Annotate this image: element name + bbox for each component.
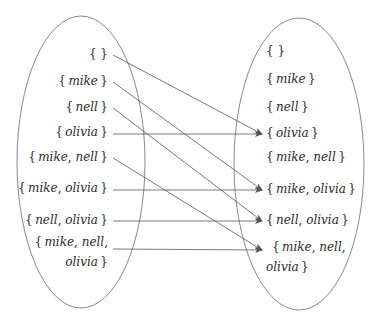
codomain-element-label: { mike, nell, [272, 240, 346, 255]
domain-element-label: { } [89, 47, 108, 62]
domain-element-label: { nell } [65, 100, 108, 115]
codomain-element-label: olivia } [266, 260, 309, 275]
mapping-arrow [113, 249, 262, 250]
domain-element-label: { olivia } [55, 125, 108, 140]
domain-element-label: olivia } [65, 255, 108, 270]
codomain-element-label: { mike, olivia } [266, 182, 356, 197]
codomain-element-label: { mike, nell } [266, 150, 346, 165]
codomain-element-label: { nell, olivia } [266, 213, 349, 228]
domain-element-label: { mike, nell } [28, 150, 108, 165]
codomain-element-label: { } [266, 44, 285, 59]
mapping-arrow [113, 55, 262, 134]
domain-element-label: { nell, olivia } [25, 213, 108, 228]
domain-element-label: { mike, olivia } [18, 181, 108, 196]
domain-element-label: { mike, nell, [34, 235, 108, 250]
codomain-element-label: { nell } [266, 100, 309, 115]
codomain-element-label: { olivia } [266, 126, 319, 141]
domain-element-label: { mike } [58, 74, 108, 89]
mapping-arrow [113, 82, 262, 190]
codomain-element-label: { mike } [266, 72, 316, 87]
